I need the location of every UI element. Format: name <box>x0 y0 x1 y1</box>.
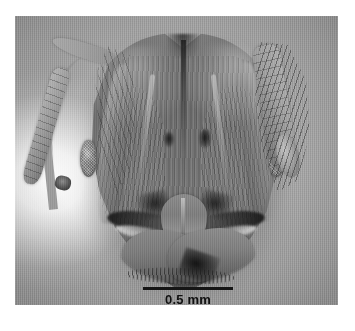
frontal-pit-right <box>199 129 211 148</box>
median-longitudinal-furrow <box>181 40 186 190</box>
compound-eye-left <box>80 140 97 177</box>
figure-root: 0.5 mm <box>0 0 355 331</box>
ant-head-specimen <box>15 16 338 305</box>
micrograph-image: 0.5 mm <box>15 16 338 305</box>
ommatidia-texture-left <box>81 141 96 176</box>
scale-bar-label: 0.5 mm <box>135 292 241 305</box>
frontal-pit-left <box>164 132 174 147</box>
scale-bar-line <box>143 287 233 290</box>
